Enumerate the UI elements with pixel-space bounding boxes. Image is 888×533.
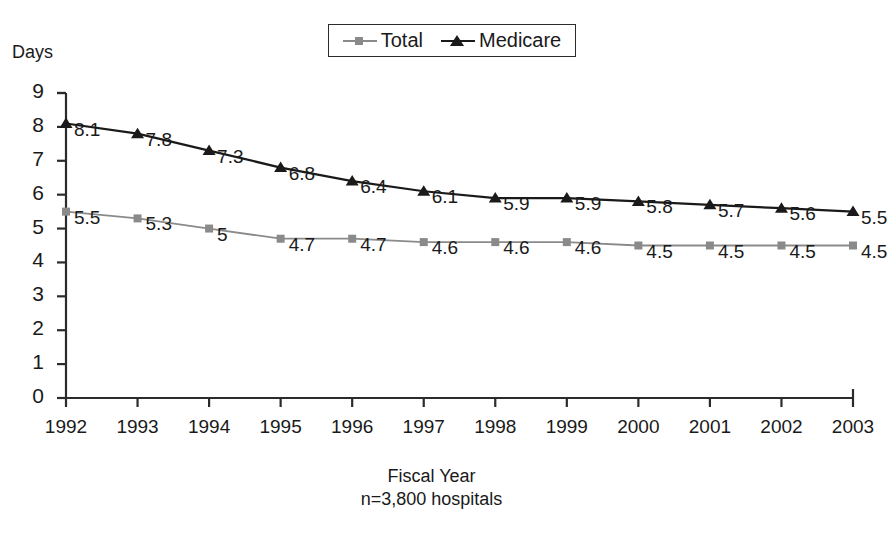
square-marker-icon xyxy=(849,242,857,250)
data-point-label: 4.6 xyxy=(575,237,601,259)
x-axis-tick-label: 1993 xyxy=(103,416,173,438)
x-axis-tick-label: 2003 xyxy=(818,416,888,438)
data-point-label: 4.5 xyxy=(789,241,815,263)
y-axis-tick-label: 4 xyxy=(20,248,44,272)
data-point-label: 4.7 xyxy=(360,234,386,256)
x-axis-tick-label: 1995 xyxy=(246,416,316,438)
x-axis-tick-label: 2001 xyxy=(675,416,745,438)
x-axis-tick-label: 1994 xyxy=(174,416,244,438)
data-point-label: 5.3 xyxy=(146,213,172,235)
x-axis-title: Fiscal Year xyxy=(0,466,863,487)
square-marker-icon xyxy=(420,238,428,246)
x-axis-tick-label: 1992 xyxy=(31,416,101,438)
y-axis-tick-label: 0 xyxy=(20,384,44,408)
y-axis-tick-label: 3 xyxy=(20,282,44,306)
triangle-marker-icon xyxy=(60,118,73,129)
data-point-label: 4.7 xyxy=(289,234,315,256)
data-point-label: 5.5 xyxy=(74,207,100,229)
data-point-label: 4.5 xyxy=(861,241,887,263)
square-marker-icon xyxy=(706,242,714,250)
y-axis-tick-label: 2 xyxy=(20,316,44,340)
y-axis-tick-label: 5 xyxy=(20,215,44,239)
data-point-label: 4.6 xyxy=(432,237,458,259)
data-point-label: 4.5 xyxy=(718,241,744,263)
data-point-label: 6.8 xyxy=(289,163,315,185)
series-line-medicare xyxy=(66,124,853,212)
data-point-label: 5 xyxy=(217,224,228,246)
square-marker-icon xyxy=(134,214,142,222)
y-axis-tick-label: 8 xyxy=(20,113,44,137)
data-point-label: 4.5 xyxy=(646,241,672,263)
square-marker-icon xyxy=(634,242,642,250)
y-axis-tick-label: 7 xyxy=(20,147,44,171)
data-point-label: 5.9 xyxy=(575,193,601,215)
data-point-label: 5.8 xyxy=(646,196,672,218)
x-axis-tick-label: 1997 xyxy=(389,416,459,438)
x-axis-tick-label: 1999 xyxy=(532,416,602,438)
sample-size-note: n=3,800 hospitals xyxy=(0,489,863,510)
y-axis-tick-label: 6 xyxy=(20,181,44,205)
square-marker-icon xyxy=(205,225,213,233)
x-axis-tick-label: 2002 xyxy=(746,416,816,438)
x-axis-tick-label: 1998 xyxy=(460,416,530,438)
y-axis-tick-label: 1 xyxy=(20,350,44,374)
data-point-label: 5.6 xyxy=(789,203,815,225)
data-point-label: 5.5 xyxy=(861,207,887,229)
x-axis-tick-label: 1996 xyxy=(317,416,387,438)
square-marker-icon xyxy=(348,235,356,243)
data-point-label: 4.6 xyxy=(503,237,529,259)
x-axis-tick-label: 2000 xyxy=(603,416,673,438)
square-marker-icon xyxy=(277,235,285,243)
y-axis-tick-label: 9 xyxy=(20,79,44,103)
square-marker-icon xyxy=(491,238,499,246)
square-marker-icon xyxy=(563,238,571,246)
square-marker-icon xyxy=(62,208,70,216)
data-point-label: 5.9 xyxy=(503,193,529,215)
data-point-label: 7.8 xyxy=(146,129,172,151)
data-point-label: 6.1 xyxy=(432,186,458,208)
data-point-label: 5.7 xyxy=(718,200,744,222)
data-point-label: 8.1 xyxy=(74,119,100,141)
square-marker-icon xyxy=(777,242,785,250)
data-point-label: 6.4 xyxy=(360,176,386,198)
data-point-label: 7.3 xyxy=(217,146,243,168)
